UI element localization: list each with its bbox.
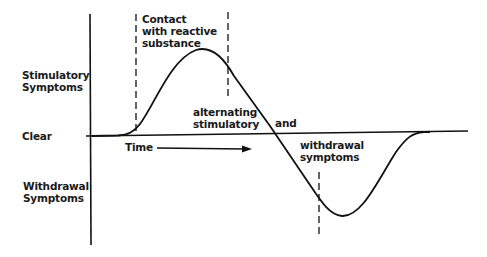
label-withdrawal: Withdrawal: [23, 180, 89, 192]
annotation-contact: Contact with reactive substance: [142, 13, 217, 49]
annotation-contact-line2: with reactive: [142, 25, 217, 37]
annotation-withdrawal-line2: symptoms: [300, 151, 364, 163]
label-stimulatory-symptoms: Stimulatory Symptoms: [22, 69, 89, 93]
annotation-alternating: alternating stimulatory: [193, 106, 259, 130]
annotation-and: and: [275, 117, 296, 129]
time-arrow-head: [242, 146, 252, 153]
vertical-axis: [90, 14, 91, 245]
annotation-contact-line3: substance: [142, 37, 217, 49]
label-symptoms-2: Symptoms: [23, 192, 89, 204]
annotation-withdrawal: withdrawal symptoms: [300, 139, 364, 163]
label-stimulatory: Stimulatory: [22, 69, 89, 81]
annotation-alternating-line1: alternating: [193, 106, 259, 118]
label-clear: Clear: [22, 130, 52, 142]
annotation-withdrawal-line1: withdrawal: [300, 139, 364, 151]
label-time: Time: [125, 141, 153, 153]
label-symptoms: Symptoms: [22, 81, 89, 93]
time-arrow-line: [157, 148, 246, 149]
label-withdrawal-symptoms: Withdrawal Symptoms: [23, 180, 89, 204]
annotation-contact-line1: Contact: [142, 13, 217, 25]
annotation-alternating-line2: stimulatory: [193, 118, 259, 130]
